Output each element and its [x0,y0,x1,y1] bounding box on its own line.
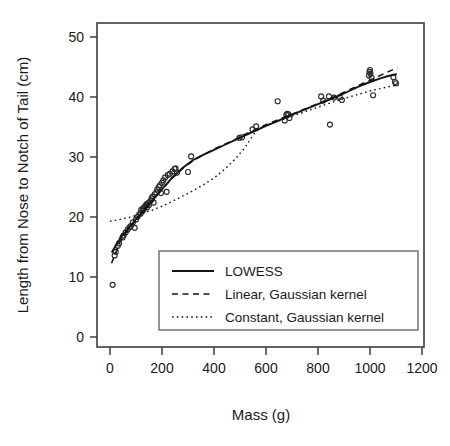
legend-label-linear-gaussian-kernel: Linear, Gaussian kernel [225,287,367,302]
y-tick-label: 40 [68,89,84,105]
y-tick-label: 20 [68,209,84,225]
x-tick-label: 400 [202,360,226,376]
y-tick-label: 0 [76,329,84,345]
y-tick-label: 10 [68,269,84,285]
scatter-plot-svg: 50 40 30 20 10 0 0 200 400 600 800 1000 … [0,0,450,446]
legend-label-constant-gaussian-kernel: Constant, Gaussian kernel [225,310,384,325]
x-tick-label: 800 [306,360,330,376]
x-tick-label: 1200 [406,360,437,376]
x-axis-title: Mass (g) [232,406,290,423]
y-tick-label: 30 [68,149,84,165]
x-tick-label: 600 [254,360,278,376]
y-tick-label: 50 [68,29,84,45]
legend-label-lowess: LOWESS [225,264,283,279]
x-tick-label: 1000 [354,360,385,376]
x-tick-label: 0 [106,360,114,376]
legend: LOWESS Linear, Gaussian kernel Constant,… [159,251,418,330]
y-axis-title: Length from Nose to Notch of Tail (cm) [14,57,31,314]
x-tick-label: 200 [150,360,174,376]
chart-figure: 50 40 30 20 10 0 0 200 400 600 800 1000 … [0,0,450,446]
